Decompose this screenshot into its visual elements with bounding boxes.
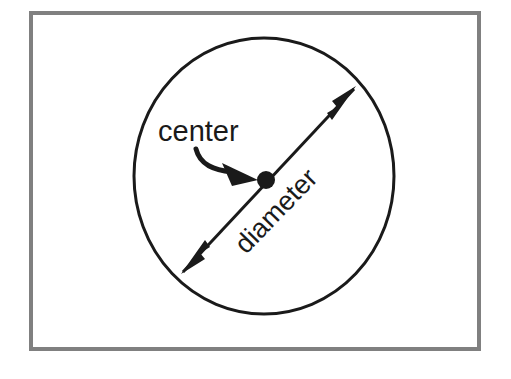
center-point-dot [257, 171, 275, 189]
label-center: center [158, 115, 239, 147]
diameter-arrowhead-upper-right-icon [327, 86, 356, 120]
figure-canvas: center diameter [0, 0, 511, 379]
circle-diagram: center diameter [0, 0, 511, 379]
center-leader-arrowhead-icon [222, 163, 258, 186]
diameter-arrowhead-lower-left-icon [181, 240, 210, 274]
